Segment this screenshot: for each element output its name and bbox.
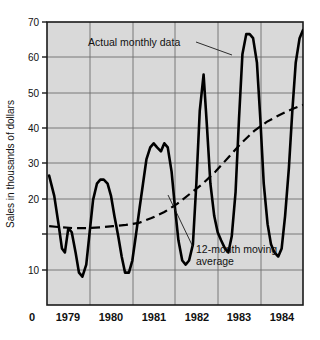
x-tick-1982: 1982 [185,311,209,323]
y-tick-60: 60 [28,52,40,63]
y-tick-10: 10 [28,265,40,276]
y-tick-20: 20 [28,194,40,205]
y-tick-30: 30 [28,158,40,169]
annotation-moving-average-line2: average [196,255,234,267]
y-tick-40: 40 [28,123,40,134]
y-axis-tick-labels: 70 60 50 40 30 20 10 [28,17,40,276]
y-axis-title: Sales in thousands of dollars [5,100,16,228]
x-tick-1981: 1981 [142,311,166,323]
annotation-actual-monthly-data: Actual monthly data [88,36,180,48]
y-tick-50: 50 [28,88,40,99]
x-tick-1984: 1984 [270,311,295,323]
sales-line-chart: 70 60 50 40 30 20 10 Sales in thousands … [0,0,320,340]
x-axis-tick-labels: 0 1979 1980 1981 1982 1983 1984 [29,311,295,323]
x-tick-1980: 1980 [99,311,123,323]
x-tick-1979: 1979 [56,311,80,323]
x-origin-label: 0 [29,311,35,323]
y-tick-70: 70 [28,17,40,28]
x-tick-1983: 1983 [227,311,251,323]
annotation-moving-average-line1: 12-month moving [196,243,277,255]
